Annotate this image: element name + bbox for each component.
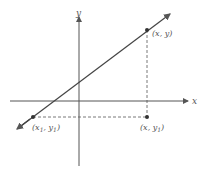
main-line-tail	[17, 119, 30, 129]
x-axis-label: x	[192, 96, 197, 106]
point-x1-y1	[31, 115, 35, 119]
point-x-y	[145, 28, 149, 32]
label-x-y1: (x, y1)	[140, 123, 164, 133]
label-x-y: (x, y)	[152, 29, 172, 38]
point-x-y1	[145, 115, 149, 119]
label-x1-y1: (x1, y1)	[32, 123, 60, 133]
y-axis-label: y	[75, 8, 82, 18]
coordinate-diagram: x y (x1, y1) (x, y) (x, y1)	[0, 0, 203, 170]
